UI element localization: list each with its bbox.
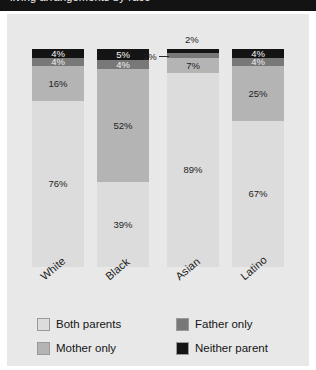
legend-label-mother-only: Mother only [56, 342, 116, 354]
segment-value-label: 67% [248, 189, 267, 199]
segment-asian-mother-only[interactable]: 7% [167, 58, 219, 73]
segment-value-label: 76% [48, 179, 67, 189]
segment-latino-father-only[interactable]: 4% [232, 58, 284, 67]
segment-value-label: 39% [113, 220, 132, 230]
segment-value-label: 4% [251, 57, 265, 67]
legend-swatch-both-parents [37, 318, 50, 331]
legend-item-neither-parent: Neither parent [176, 338, 268, 358]
legend-swatch-mother-only [37, 342, 50, 355]
segment-white-father-only[interactable]: 4% [32, 58, 84, 67]
segment-value-label: 4% [116, 60, 130, 70]
bar-black[interactable]: 5%4%52%39% [97, 49, 149, 267]
segment-value-label: 7% [186, 61, 200, 71]
chart-figure: living arrangements by race 4%4%16%76%Wh… [0, 0, 316, 370]
legend-swatch-neither-parent [176, 342, 189, 355]
segment-value-label: 25% [248, 89, 267, 99]
legend-item-father-only: Father only [176, 314, 268, 334]
outside-label-asian-neither-parent: 2% [185, 35, 199, 45]
header-band-text: living arrangements by race [10, 0, 151, 3]
segment-black-mother-only[interactable]: 52% [97, 69, 149, 182]
outside-label-asian-father-only: 2% [143, 52, 157, 62]
segment-black-both-parents[interactable]: 39% [97, 182, 149, 267]
leader-line-asian-father-only [159, 56, 169, 57]
segment-asian-both-parents[interactable]: 89% [167, 73, 219, 267]
segment-white-mother-only[interactable]: 16% [32, 66, 84, 101]
segment-latino-mother-only[interactable]: 25% [232, 66, 284, 121]
chart-panel: 4%4%16%76%White5%4%52%39%Black7%89%Asian… [7, 14, 309, 366]
legend-swatch-father-only [176, 318, 189, 331]
legend-item-both-parents: Both parents [37, 314, 121, 334]
legend-item-mother-only: Mother only [37, 338, 121, 358]
bar-latino[interactable]: 4%4%25%67% [232, 49, 284, 267]
legend-column-right: Father only Neither parent [176, 314, 268, 362]
legend-label-father-only: Father only [195, 318, 253, 330]
segment-black-father-only[interactable]: 4% [97, 60, 149, 69]
segment-value-label: 5% [116, 50, 130, 60]
legend-column-left: Both parents Mother only [37, 314, 121, 362]
segment-value-label: 52% [113, 121, 132, 131]
bar-asian[interactable]: 7%89% [167, 49, 219, 267]
legend-label-both-parents: Both parents [56, 318, 121, 330]
segment-value-label: 89% [183, 165, 202, 175]
legend-label-neither-parent: Neither parent [195, 342, 268, 354]
segment-value-label: 16% [48, 79, 67, 89]
segment-latino-both-parents[interactable]: 67% [232, 121, 284, 267]
segment-white-both-parents[interactable]: 76% [32, 101, 84, 267]
segment-value-label: 4% [51, 57, 65, 67]
header-band: living arrangements by race [0, 0, 316, 11]
bar-white[interactable]: 4%4%16%76% [32, 49, 84, 267]
